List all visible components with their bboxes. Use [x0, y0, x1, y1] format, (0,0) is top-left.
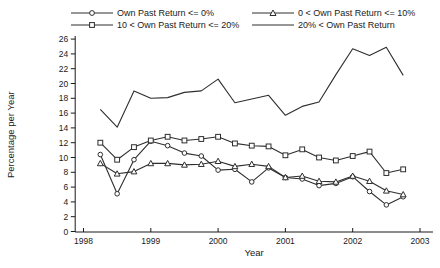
circle-marker: [216, 168, 221, 173]
y-tick-label: 4: [63, 197, 68, 207]
y-tick-label: 12: [59, 138, 69, 148]
square-marker: [384, 171, 389, 176]
square-marker: [216, 134, 221, 139]
y-tick-label: 2: [63, 212, 68, 222]
triangle-marker: [383, 188, 389, 193]
series-line: [100, 47, 403, 127]
square-marker: [367, 149, 372, 154]
x-axis-title: Year: [244, 247, 263, 258]
circle-marker: [367, 189, 372, 194]
x-tick-label: 2000: [209, 236, 228, 246]
y-tick-label: 24: [59, 49, 69, 59]
y-axis-title: Percentage per Year: [5, 91, 16, 178]
y-tick-label: 16: [59, 108, 69, 118]
square-marker: [350, 154, 355, 159]
x-tick-label: 1998: [74, 236, 93, 246]
x-tick-label: 2001: [276, 236, 295, 246]
circle-marker: [199, 154, 204, 159]
y-tick-label: 14: [59, 123, 69, 133]
y-tick-label: 26: [59, 34, 69, 44]
circle-marker: [115, 191, 120, 196]
square-marker: [148, 138, 153, 143]
y-tick-label: 0: [63, 227, 68, 237]
square-marker: [132, 145, 137, 150]
x-tick-label: 1999: [141, 236, 160, 246]
square-marker: [115, 157, 120, 162]
square-marker: [165, 134, 170, 139]
y-tick-label: 6: [63, 182, 68, 192]
circle-marker: [384, 203, 389, 208]
circle-marker: [249, 180, 254, 185]
square-marker: [266, 144, 271, 149]
square-marker: [233, 141, 238, 146]
triangle-marker: [215, 158, 221, 163]
x-tick-label: 2003: [411, 236, 430, 246]
square-marker: [401, 167, 406, 172]
square-marker: [300, 147, 305, 152]
circle-marker: [165, 143, 170, 148]
y-tick-label: 10: [59, 153, 69, 163]
x-tick-label: 2002: [343, 236, 362, 246]
y-tick-label: 18: [59, 93, 69, 103]
chart: Own Past Return <= 0% 0 < Own Past Retur…: [0, 0, 440, 268]
square-marker: [199, 137, 204, 142]
series-line: [100, 141, 403, 205]
series-line: [100, 137, 403, 173]
circle-marker: [132, 157, 137, 162]
plot-area: 0246810121416182022242619981999200020012…: [0, 0, 440, 268]
y-tick-label: 8: [63, 167, 68, 177]
triangle-marker: [97, 160, 103, 165]
y-tick-label: 22: [59, 64, 69, 74]
square-marker: [182, 138, 187, 143]
circle-marker: [98, 152, 103, 157]
circle-marker: [182, 151, 187, 156]
square-marker: [283, 153, 288, 158]
triangle-marker: [249, 161, 255, 166]
square-marker: [317, 155, 322, 160]
square-marker: [249, 143, 254, 148]
square-marker: [98, 140, 103, 145]
circle-marker: [317, 183, 322, 188]
square-marker: [333, 158, 338, 163]
y-tick-label: 20: [59, 79, 69, 89]
